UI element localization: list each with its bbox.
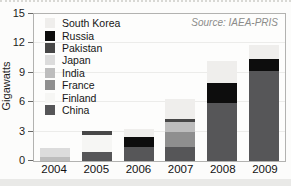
nuclear-capacity-chart: Gigawatts South KoreaRussiaPakistanJapan…	[0, 0, 291, 186]
segment-2009-china	[249, 71, 279, 161]
segment-2006-south-korea	[124, 129, 154, 137]
segment-2007-south-korea	[165, 99, 195, 120]
legend-swatch-india	[45, 68, 55, 78]
bar-2006	[124, 14, 154, 161]
legend-item-russia: Russia	[45, 29, 120, 41]
y-tick-label-6: 6	[3, 96, 25, 107]
bar-2009	[249, 14, 279, 161]
segment-2008-russia	[207, 83, 237, 104]
y-tick-mark-15	[28, 13, 33, 14]
plot-area: South KoreaRussiaPakistanJapanIndiaFranc…	[33, 13, 286, 162]
legend-label: Russia	[62, 30, 94, 42]
legend-swatch-pakistan	[45, 43, 55, 53]
segment-2006-china	[124, 147, 154, 161]
legend-item-japan: Japan	[45, 54, 120, 66]
bar-slot-2008	[201, 14, 243, 161]
legend-item-india: India	[45, 67, 120, 79]
y-tick-label-0: 0	[3, 155, 25, 166]
legend-swatch-south-korea	[45, 18, 55, 28]
y-tick-label-12: 12	[3, 37, 25, 48]
segment-2007-china	[165, 147, 195, 161]
x-label-2007: 2007	[160, 163, 202, 175]
x-label-2008: 2008	[202, 163, 244, 175]
segment-2009-russia	[249, 59, 279, 71]
bar-2007	[165, 14, 195, 161]
footer-strip	[0, 179, 291, 186]
legend-label: Japan	[62, 54, 91, 66]
y-tick-label-3: 3	[3, 126, 25, 137]
segment-2008-south-korea	[207, 61, 237, 83]
segment-2004-india	[40, 157, 70, 161]
x-label-2004: 2004	[33, 163, 75, 175]
segment-2008-china	[207, 103, 237, 161]
legend-label: Finland	[62, 92, 96, 104]
segment-2005-china	[82, 152, 112, 161]
y-axis-title: Gigawatts	[0, 49, 12, 123]
legend-label: Pakistan	[62, 42, 102, 54]
legend-item-pakistan: Pakistan	[45, 42, 120, 54]
y-tick-mark-9	[28, 72, 33, 73]
y-tick-label-9: 9	[3, 67, 25, 78]
legend-label: South Korea	[62, 17, 120, 29]
legend-swatch-japan	[45, 55, 55, 65]
x-axis-labels: 200420052006200720082009	[33, 163, 286, 175]
segment-2007-france	[165, 132, 195, 147]
bar-2008	[207, 14, 237, 161]
segment-2006-russia	[124, 137, 154, 147]
segment-2005-finland	[82, 135, 112, 152]
bar-slot-2007	[159, 14, 201, 161]
y-tick-mark-12	[28, 42, 33, 43]
x-label-2009: 2009	[244, 163, 286, 175]
legend-item-south-korea: South Korea	[45, 17, 120, 29]
legend: South KoreaRussiaPakistanJapanIndiaFranc…	[45, 17, 120, 116]
legend-swatch-france	[45, 80, 55, 90]
y-tick-mark-6	[28, 101, 33, 102]
bar-slot-2009	[243, 14, 285, 161]
x-label-2006: 2006	[117, 163, 159, 175]
legend-swatch-finland	[45, 93, 55, 103]
y-tick-mark-3	[28, 131, 33, 132]
legend-item-china: China	[45, 104, 120, 116]
legend-label: India	[62, 67, 85, 79]
legend-item-france: France	[45, 79, 120, 91]
legend-label: China	[62, 104, 89, 116]
segment-2007-india	[165, 122, 195, 131]
legend-swatch-china	[45, 105, 55, 115]
legend-swatch-russia	[45, 31, 55, 41]
x-label-2005: 2005	[75, 163, 117, 175]
segment-2009-south-korea	[249, 45, 279, 59]
y-tick-mark-0	[28, 160, 33, 161]
segment-2004-japan	[40, 148, 70, 157]
y-tick-label-15: 15	[3, 8, 25, 19]
source-note: Source: IAEA-PRIS	[191, 17, 278, 28]
bar-slot-2006	[118, 14, 160, 161]
legend-item-finland: Finland	[45, 91, 120, 103]
legend-label: France	[62, 79, 95, 91]
